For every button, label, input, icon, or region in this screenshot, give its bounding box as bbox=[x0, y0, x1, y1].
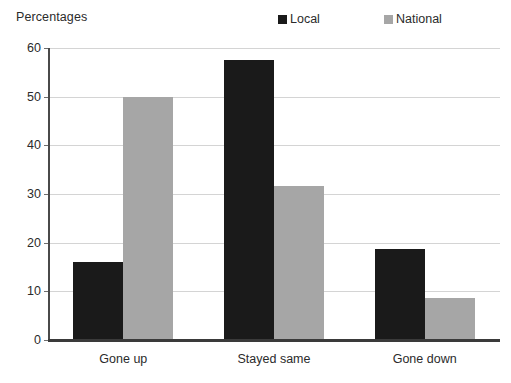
x-tick-label: Stayed same bbox=[199, 352, 350, 366]
gridline bbox=[48, 145, 500, 146]
x-axis-line bbox=[48, 339, 500, 342]
legend-label-national: National bbox=[396, 12, 442, 26]
plot-area: 0102030405060 bbox=[48, 48, 500, 340]
x-tick-label: Gone down bbox=[349, 352, 500, 366]
bar-national-stayed-same bbox=[274, 186, 324, 340]
y-tick-label: 20 bbox=[27, 236, 41, 250]
bar-local-gone-up bbox=[73, 262, 123, 340]
bar-local-stayed-same bbox=[224, 60, 274, 340]
bar-national-gone-up bbox=[123, 97, 173, 340]
y-tick-label: 30 bbox=[27, 187, 41, 201]
bar-chart: Percentages Local National 0102030405060… bbox=[0, 0, 511, 383]
legend-item-local: Local bbox=[278, 10, 320, 28]
legend-square-icon-national bbox=[384, 15, 393, 24]
bar-national-gone-down bbox=[425, 298, 475, 340]
y-axis-line bbox=[48, 48, 50, 341]
legend-label-local: Local bbox=[290, 12, 320, 26]
gridline bbox=[48, 48, 500, 49]
y-axis-title: Percentages bbox=[16, 10, 87, 24]
y-tick-label: 60 bbox=[27, 41, 41, 55]
legend-item-national: National bbox=[384, 10, 442, 28]
x-tick-label: Gone up bbox=[48, 352, 199, 366]
bar-local-gone-down bbox=[375, 249, 425, 340]
legend-square-icon-local bbox=[278, 15, 287, 24]
gridline bbox=[48, 97, 500, 98]
y-tick-label: 40 bbox=[27, 138, 41, 152]
chart-legend: Local National bbox=[278, 10, 498, 28]
y-tick-label: 50 bbox=[27, 90, 41, 104]
y-tick-label: 10 bbox=[27, 284, 41, 298]
y-tick-label: 0 bbox=[34, 333, 41, 347]
